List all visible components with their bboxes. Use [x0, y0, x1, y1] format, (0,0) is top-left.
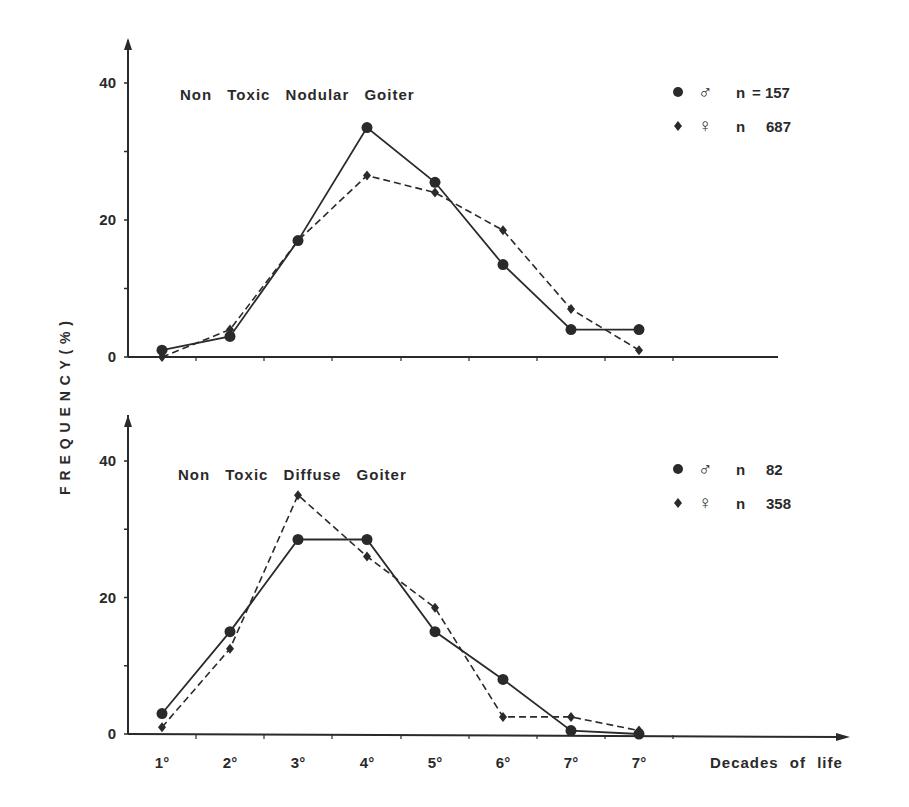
series-group [157, 122, 645, 362]
male-data-point [498, 259, 509, 270]
diffuse-goiter-panel: 02040 Non Toxic Diffuse Goiter ♂n82♀n358… [99, 415, 850, 771]
male-data-point [430, 626, 441, 637]
x-tick-label: 2° [223, 754, 237, 771]
x-tick-label: 7° [632, 754, 646, 771]
y-axis-label: F R E Q U E N C Y ( % ) [57, 320, 73, 495]
male-data-point [293, 534, 304, 545]
legend-n-value: 687 [766, 118, 791, 135]
legend-n-value: = 157 [752, 84, 790, 101]
female-data-point [567, 304, 575, 314]
legend: ♂n= 157♀n687 [673, 81, 791, 136]
x-tick-labels: 1°2°3°4°5°6°7°7° [155, 754, 646, 771]
legend-n-label: n [736, 461, 745, 478]
y-axis-arrow-icon [124, 415, 132, 427]
figure: F R E Q U E N C Y ( % ) 02040 Non Toxic … [0, 0, 909, 807]
male-data-point [225, 626, 236, 637]
y-ticks: 02040 [99, 74, 128, 365]
legend: ♂n82♀n358 [673, 458, 791, 513]
male-data-point [430, 177, 441, 188]
circle-marker-icon [673, 87, 683, 97]
x-tick-label: 6° [496, 754, 510, 771]
female-data-point [567, 712, 575, 722]
legend-n-value: 358 [766, 495, 791, 512]
male-data-point [634, 324, 645, 335]
male-series-line [162, 128, 639, 351]
series-group [157, 490, 645, 739]
male-data-point [498, 674, 509, 685]
legend-n-value: 82 [766, 461, 783, 478]
chart-canvas: F R E Q U E N C Y ( % ) 02040 Non Toxic … [0, 0, 909, 807]
y-tick-label: 0 [108, 348, 116, 365]
y-tick-label: 20 [99, 211, 116, 228]
male-data-point [362, 122, 373, 133]
male-data-point [566, 324, 577, 335]
x-tick-label: 5° [428, 754, 442, 771]
female-symbol-icon: ♀ [698, 115, 712, 136]
x-tick-label: 7° [564, 754, 578, 771]
panel-title: Non Toxic Diffuse Goiter [178, 466, 407, 483]
female-series-line [162, 495, 639, 730]
y-tick-label: 40 [99, 452, 116, 469]
x-tick-label: 1° [155, 754, 169, 771]
x-tick-label: 3° [291, 754, 305, 771]
svg-text:F R E Q U E N C Y ( % ): F R E Q U E N C Y ( % ) [57, 320, 73, 495]
male-data-point [362, 534, 373, 545]
x-axis [128, 734, 845, 737]
circle-marker-icon [673, 464, 683, 474]
legend-n-label: n [736, 495, 745, 512]
x-axis-label: Decades of life [710, 754, 843, 771]
y-tick-label: 0 [108, 725, 116, 742]
panel-title: Non Toxic Nodular Goiter [180, 86, 415, 103]
male-series-line [162, 540, 639, 735]
y-axis-arrow-icon [124, 38, 132, 50]
diamond-marker-icon [674, 121, 682, 131]
female-data-point [635, 345, 643, 355]
male-data-point [566, 725, 577, 736]
y-tick-label: 20 [99, 589, 116, 606]
male-data-point [157, 708, 168, 719]
male-symbol-icon: ♂ [698, 458, 712, 479]
legend-n-label: n [736, 84, 745, 101]
female-symbol-icon: ♀ [698, 492, 712, 513]
x-axis-arrow-icon [836, 733, 850, 741]
y-tick-label: 40 [99, 74, 116, 91]
legend-n-label: n [736, 118, 745, 135]
male-symbol-icon: ♂ [698, 81, 712, 102]
x-tick-label: 4° [360, 754, 374, 771]
nodular-goiter-panel: 02040 Non Toxic Nodular Goiter ♂n= 157♀n… [99, 38, 791, 365]
female-data-point [431, 188, 439, 198]
y-ticks: 02040 [99, 452, 128, 742]
female-data-point [363, 552, 371, 562]
diamond-marker-icon [674, 498, 682, 508]
